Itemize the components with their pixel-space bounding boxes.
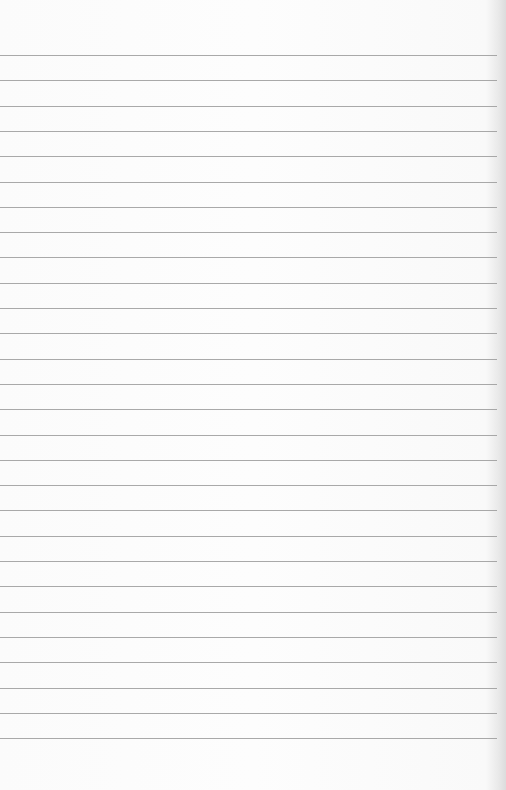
ruled-line bbox=[0, 713, 497, 714]
ruled-line bbox=[0, 106, 497, 107]
ruled-line bbox=[0, 510, 497, 511]
ruled-line bbox=[0, 561, 497, 562]
ruled-line bbox=[0, 536, 497, 537]
ruled-line bbox=[0, 308, 497, 309]
ruled-line bbox=[0, 460, 497, 461]
ruled-line bbox=[0, 688, 497, 689]
ruled-line bbox=[0, 80, 497, 81]
ruled-line bbox=[0, 257, 497, 258]
ruled-line bbox=[0, 435, 497, 436]
ruled-line bbox=[0, 232, 497, 233]
ruled-line bbox=[0, 207, 497, 208]
ruled-line bbox=[0, 359, 497, 360]
ruled-line bbox=[0, 283, 497, 284]
ruled-line bbox=[0, 612, 497, 613]
ruled-line bbox=[0, 637, 497, 638]
lined-paper bbox=[0, 0, 506, 790]
ruled-line bbox=[0, 485, 497, 486]
ruled-line bbox=[0, 738, 497, 739]
ruled-line bbox=[0, 182, 497, 183]
ruled-line bbox=[0, 409, 497, 410]
ruled-line bbox=[0, 156, 497, 157]
ruled-line bbox=[0, 55, 497, 56]
ruled-line bbox=[0, 586, 497, 587]
ruled-line bbox=[0, 131, 497, 132]
ruled-line bbox=[0, 662, 497, 663]
ruled-line bbox=[0, 333, 497, 334]
ruled-line bbox=[0, 384, 497, 385]
